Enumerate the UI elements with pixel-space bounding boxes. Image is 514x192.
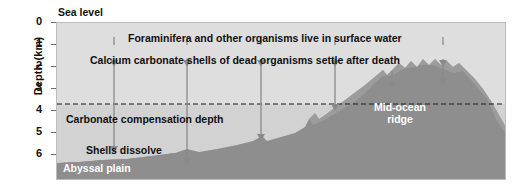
tick-label-6: 6 — [28, 147, 42, 159]
abyssal-plain-label: Abyssal plain — [63, 162, 131, 174]
ccd-label: Carbonate compensation depth — [66, 113, 224, 125]
tick-label-5: 5 — [28, 125, 42, 137]
tick-label-4: 4 — [28, 103, 42, 115]
shells-dissolve-label: Shells dissolve — [86, 144, 162, 156]
mid-ocean-ridge-label: Mid-ocean ridge — [374, 101, 426, 125]
tick-label-3: 3 — [28, 81, 42, 93]
settling-shells-label: Calcium carbonate shells of dead organis… — [90, 54, 400, 66]
mid-ocean-ridge-line-2: ridge — [387, 113, 413, 125]
tick-label-1: 1 — [28, 37, 42, 49]
surface-organisms-label: Foraminifera and other organisms live in… — [128, 32, 402, 44]
ocean-cross-section: Mid-ocean ridge Abyssal plain — [56, 22, 506, 180]
mid-ocean-ridge-line-1: Mid-ocean — [374, 101, 426, 113]
tick-label-2: 2 — [28, 59, 42, 71]
tick-label-0: 0 — [28, 15, 42, 27]
sea-level-label: Sea level — [58, 6, 103, 18]
cross-section-svg — [57, 23, 506, 180]
ocean-carbonate-diagram: Depth (km) 0 1 2 3 4 5 6 Sea level — [0, 0, 514, 192]
